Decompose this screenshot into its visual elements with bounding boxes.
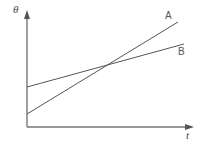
- y-axis-label: θ: [13, 4, 18, 15]
- x-axis-label: t: [186, 130, 189, 141]
- y-axis-arrow-icon: [24, 10, 30, 19]
- plot-canvas: [0, 0, 203, 150]
- graph-figure: θ t A B: [0, 0, 203, 150]
- series-label-a: A: [165, 11, 172, 21]
- series-label-b: B: [178, 47, 185, 57]
- series-line-b: [27, 44, 184, 87]
- series-line-a: [27, 22, 178, 114]
